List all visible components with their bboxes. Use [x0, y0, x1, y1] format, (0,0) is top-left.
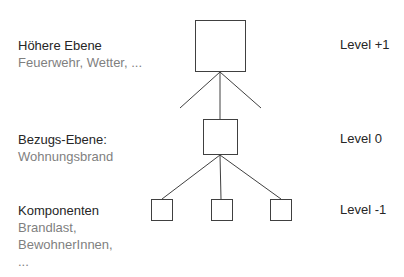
- higher-level-label: Höhere Ebene Feuerwehr, Wetter, ...: [18, 37, 142, 71]
- components-description-3: ...: [18, 253, 113, 270]
- reference-level-description: Wohnungsbrand: [18, 148, 113, 165]
- level-plus-1-label: Level +1: [340, 37, 390, 52]
- box-component-3: [271, 200, 292, 221]
- higher-level-title: Höhere Ebene: [18, 37, 142, 54]
- level-minus-1-label: Level -1: [340, 202, 386, 217]
- box-component-2: [212, 200, 233, 221]
- box-reference-level: [204, 120, 238, 155]
- connector: [220, 155, 221, 199]
- higher-level-description: Feuerwehr, Wetter, ...: [18, 54, 142, 71]
- box-higher-level: [196, 21, 246, 72]
- components-description-2: BewohnerInnen,: [18, 236, 113, 253]
- components-label: Komponenten Brandlast, BewohnerInnen, ..…: [18, 202, 113, 270]
- connector: [220, 72, 261, 108]
- reference-level-label: Bezugs-Ebene: Wohnungsbrand: [18, 131, 113, 165]
- components-description-1: Brandlast,: [18, 219, 113, 236]
- level-0-label: Level 0: [340, 131, 382, 146]
- connector: [220, 155, 281, 199]
- connector: [180, 72, 220, 108]
- connector: [162, 155, 220, 199]
- reference-level-title: Bezugs-Ebene:: [18, 131, 113, 148]
- box-component-1: [152, 200, 173, 221]
- components-title: Komponenten: [18, 202, 113, 219]
